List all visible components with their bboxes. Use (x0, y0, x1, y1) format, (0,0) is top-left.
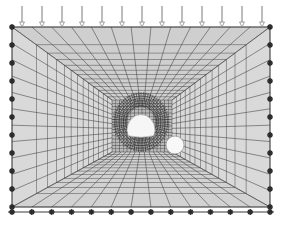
support-marker-bottom (188, 209, 194, 215)
support-marker-bottom (29, 209, 35, 215)
support-marker-left (9, 24, 15, 30)
borehole-circle (166, 136, 184, 154)
support-marker-bottom (267, 209, 273, 215)
figure-canvas (0, 0, 282, 228)
support-marker-bottom (49, 209, 55, 215)
support-marker-bottom (69, 209, 75, 215)
support-marker-bottom (208, 209, 214, 215)
support-marker-left (9, 60, 15, 66)
support-marker-left (9, 96, 15, 102)
support-marker-right (267, 78, 273, 84)
support-marker-bottom (9, 209, 15, 215)
support-marker-bottom (227, 209, 233, 215)
support-marker-bottom (247, 209, 253, 215)
support-marker-left (9, 204, 15, 210)
support-marker-bottom (128, 209, 134, 215)
tunnel-mesh-figure (0, 0, 282, 228)
support-marker-left (9, 78, 15, 84)
support-marker-bottom (88, 209, 94, 215)
support-marker-right (267, 204, 273, 210)
support-marker-right (267, 96, 273, 102)
support-marker-bottom (168, 209, 174, 215)
support-marker-right (267, 150, 273, 156)
support-marker-bottom (148, 209, 154, 215)
support-marker-left (9, 150, 15, 156)
support-marker-left (9, 168, 15, 174)
support-marker-right (267, 60, 273, 66)
secondary-opening (166, 136, 184, 154)
support-marker-left (9, 114, 15, 120)
support-marker-right (267, 24, 273, 30)
support-marker-right (267, 114, 273, 120)
support-marker-left (9, 42, 15, 48)
support-marker-right (267, 42, 273, 48)
support-marker-right (267, 168, 273, 174)
support-marker-right (267, 186, 273, 192)
support-marker-bottom (108, 209, 114, 215)
support-marker-left (9, 132, 15, 138)
support-marker-left (9, 186, 15, 192)
support-marker-right (267, 132, 273, 138)
